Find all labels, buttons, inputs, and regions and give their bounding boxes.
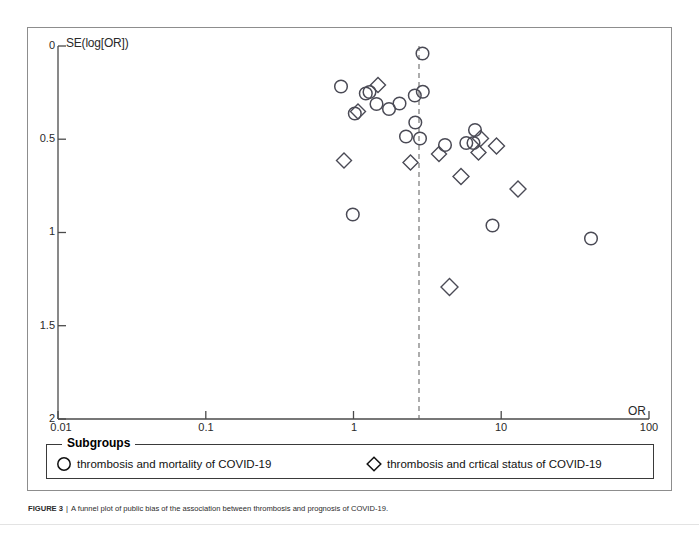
data-point-circle: [414, 132, 427, 145]
x-tick-label-0: 0.01: [41, 422, 81, 433]
data-point-circle: [439, 139, 452, 152]
data-point-diamond: [489, 138, 505, 154]
data-point-diamond: [403, 155, 418, 170]
x-tick-label-3: 10: [481, 422, 521, 433]
data-point-circle: [393, 97, 406, 110]
caption-text: A funnel plot of public bias of the asso…: [71, 504, 388, 513]
legend-circle-icon: [55, 455, 73, 473]
caption-rule: [0, 524, 699, 525]
data-point-circle: [469, 124, 482, 137]
data-point-diamond: [371, 78, 386, 93]
legend-box: thrombosis and mortality of COVID-19 thr…: [46, 444, 654, 479]
data-point-circle: [335, 80, 348, 93]
y-tick-label-1: 0.5: [25, 133, 55, 144]
data-point-circle: [347, 208, 360, 221]
caption-figure-number: FIGURE 3: [28, 504, 63, 513]
legend-entry-mortality: thrombosis and mortality of COVID-19: [55, 455, 271, 473]
legend-entry-critical: thrombosis and crtical status of COVID-1…: [365, 455, 602, 473]
x-tick-label-2: 1: [334, 422, 374, 433]
funnel-plot: SE(log[OR]) OR 0 0.5 1 1.5 2 0.01 0.1 1 …: [28, 28, 673, 492]
legend-label-critical: thrombosis and crtical status of COVID-1…: [387, 458, 602, 470]
data-point-diamond: [441, 279, 458, 296]
data-point-circle: [585, 232, 598, 245]
data-point-diamond: [351, 104, 366, 119]
data-point-circle: [417, 86, 430, 99]
y-axis-ticks: [58, 46, 66, 419]
data-point-circle: [409, 116, 422, 129]
legend-label-mortality: thrombosis and mortality of COVID-19: [77, 458, 271, 470]
x-axis-ticks: [58, 411, 649, 419]
figure-caption: FIGURE 3|A funnel plot of public bias of…: [28, 504, 673, 513]
x-tick-label-1: 0.1: [186, 422, 226, 433]
data-point-circle: [400, 130, 413, 143]
y-tick-label-3: 1.5: [25, 320, 55, 331]
x-axis-label: OR: [628, 405, 646, 417]
caption-separator: |: [63, 504, 71, 513]
data-point-circle: [486, 219, 499, 232]
legend-title: Subgroups: [62, 437, 135, 449]
data-point-diamond: [453, 169, 469, 185]
series-circles: [335, 47, 598, 245]
data-point-circle: [460, 137, 473, 150]
y-tick-label-0: 0: [25, 40, 55, 51]
figure-frame: SE(log[OR]) OR 0 0.5 1 1.5 2 0.01 0.1 1 …: [27, 27, 672, 491]
data-point-circle: [416, 47, 429, 60]
data-point-circle: [370, 98, 383, 111]
series-diamonds: [337, 78, 527, 296]
y-tick-label-2: 1: [25, 226, 55, 237]
data-point-diamond: [432, 147, 447, 162]
x-tick-label-4: 100: [629, 422, 669, 433]
data-point-diamond: [337, 153, 352, 168]
data-point-diamond: [510, 181, 526, 197]
y-axis-label: SE(log[OR]): [66, 37, 128, 49]
legend-diamond-icon: [365, 455, 383, 473]
